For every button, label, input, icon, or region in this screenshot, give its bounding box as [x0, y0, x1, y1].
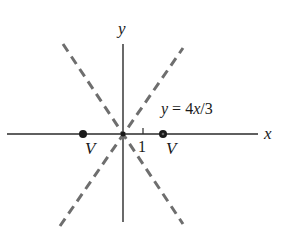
y-axis-label: y	[116, 19, 126, 38]
vertex-left-label: V	[85, 139, 98, 158]
asymptote-equation-label: y = 4x/3	[159, 100, 213, 118]
vertex-left-point	[79, 130, 87, 138]
vertex-right-label: V	[166, 139, 179, 158]
equation-x: x	[192, 100, 200, 117]
x-axis-label: x	[263, 124, 272, 143]
equation-equals: = 4	[168, 100, 193, 117]
equation-denominator: /3	[200, 100, 212, 117]
origin-point	[121, 132, 126, 137]
vertex-right-highlight	[162, 133, 165, 136]
tick-label-1: 1	[138, 138, 146, 155]
hyperbola-asymptote-diagram: y x 1 V V y = 4x/3	[0, 0, 294, 243]
